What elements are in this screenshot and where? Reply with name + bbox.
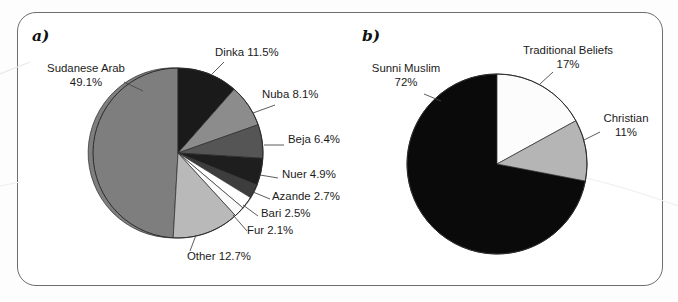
figure-container: a) b) xyxy=(0,0,678,302)
label-sunni-muslim-value: 72% xyxy=(395,76,418,88)
leader-line-bari xyxy=(243,205,258,216)
leader-line-nuba xyxy=(253,105,275,113)
label-sunni-muslim-name: Sunni Muslim xyxy=(372,62,440,74)
label-azande: Azande 2.7% xyxy=(272,190,340,204)
label-sudanese-arab-value: 49.1% xyxy=(70,76,102,88)
label-sudanese-arab: Sudanese Arab 49.1% xyxy=(30,62,142,89)
label-traditional-beliefs: Traditional Beliefs 17% xyxy=(502,44,634,71)
label-nuba: Nuba 8.1% xyxy=(262,88,318,102)
label-other: Other 12.7% xyxy=(187,250,251,264)
label-traditional-beliefs-value: 17% xyxy=(557,58,580,70)
leader-line-fur xyxy=(233,215,247,231)
label-beja: Beja 6.4% xyxy=(288,133,340,147)
scan-artifact-line xyxy=(0,182,20,186)
label-sudanese-arab-name: Sudanese Arab xyxy=(47,62,125,74)
leader-line-nuer xyxy=(260,175,278,178)
scan-artifact-line xyxy=(586,178,678,206)
label-christian-name: Christian xyxy=(604,112,649,124)
label-bari: Bari 2.5% xyxy=(261,207,310,221)
label-traditional-beliefs-name: Traditional Beliefs xyxy=(523,44,613,56)
pie-chart-religion xyxy=(407,74,587,254)
leader-line-traditional-beliefs xyxy=(540,72,553,84)
pie-chart-ethnic-groups xyxy=(88,68,263,238)
label-fur: Fur 2.1% xyxy=(247,224,293,238)
pie-slice-sudanese-arab[interactable] xyxy=(88,68,178,238)
label-nuer: Nuer 4.9% xyxy=(282,168,336,182)
leader-line-azande xyxy=(253,192,270,199)
label-christian: Christian 11% xyxy=(592,112,660,139)
leader-line-dinka xyxy=(212,62,224,74)
scan-artifact-line xyxy=(0,62,30,74)
label-sunni-muslim: Sunni Muslim 72% xyxy=(356,62,456,89)
label-christian-value: 11% xyxy=(615,126,637,138)
label-dinka: Dinka 11.5% xyxy=(215,46,279,60)
